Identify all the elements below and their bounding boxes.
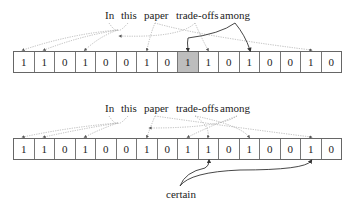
bottom-dotted-arrows (23, 116, 311, 137)
bottom-solid-arrows (180, 161, 311, 186)
top-dotted-arrows (23, 23, 311, 50)
hash-arrows (0, 0, 355, 213)
